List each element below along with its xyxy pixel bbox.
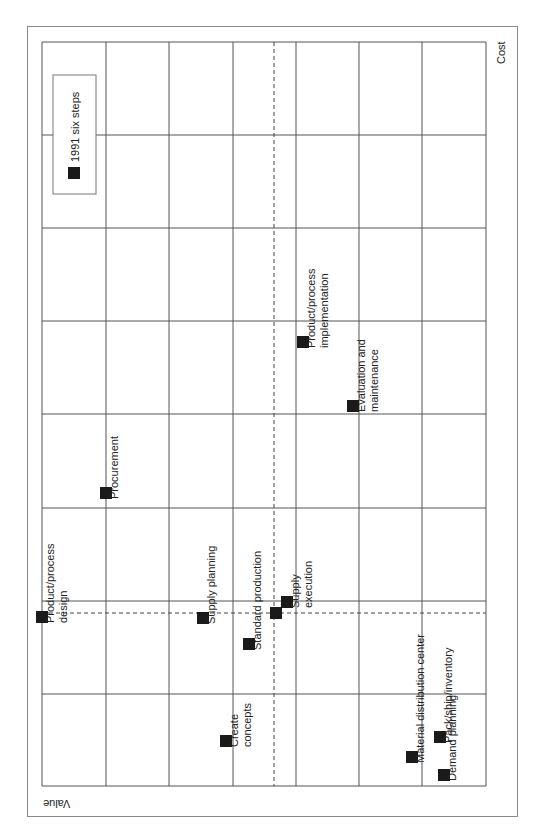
data-point-square[interactable]	[270, 607, 282, 619]
data-point-label: Procurement	[108, 436, 120, 499]
data-point-label: Supply	[289, 574, 301, 608]
y-axis-label-value: Value	[43, 798, 70, 810]
data-point-label: Demand planning	[446, 695, 458, 781]
x-axis-label-cost: Cost	[495, 41, 507, 64]
data-point-label: Create	[228, 714, 240, 747]
data-point-label: Evaluation and	[355, 339, 367, 412]
data-point-label: Product/process	[44, 543, 56, 623]
data-point-label: maintenance	[368, 349, 380, 412]
legend-square-icon	[68, 167, 80, 179]
data-point-label: Material distribution center	[414, 634, 426, 763]
data-point-label: Standard production	[251, 551, 263, 650]
data-point-label: Product/process	[305, 268, 317, 348]
data-point-label: Supply planning	[205, 546, 217, 624]
legend-label: 1991 six steps	[69, 91, 81, 162]
scatter-chart: 1991 six stepsCostValueProduct/processde…	[0, 0, 541, 840]
data-point-label: concepts	[241, 702, 253, 747]
data-point-label: implementation	[318, 273, 330, 348]
data-point-label: design	[57, 591, 69, 623]
data-point-label: execution	[302, 561, 314, 608]
